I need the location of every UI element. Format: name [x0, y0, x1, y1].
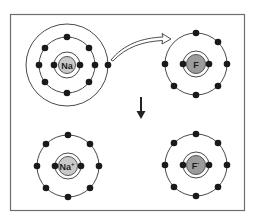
electron-icon: [162, 162, 169, 169]
diagram-frame: [11, 15, 245, 211]
electron-icon: [43, 141, 50, 148]
electron-icon: [215, 83, 222, 90]
electron-icon: [78, 163, 85, 170]
electron-icon: [180, 162, 187, 169]
electron-icon: [43, 185, 50, 192]
electron-icon: [64, 34, 71, 41]
electron-icon: [86, 79, 93, 86]
electron-icon: [193, 131, 200, 138]
electron-icon: [171, 184, 178, 191]
electron-icon: [36, 62, 43, 69]
electron-icon: [215, 140, 222, 147]
electron-icon: [77, 62, 84, 69]
electron-icon: [96, 163, 103, 170]
electron-icon: [51, 62, 58, 69]
electron-icon: [86, 45, 93, 52]
ionic-bond-diagram: Na F Na: [0, 0, 258, 222]
electron-icon: [206, 162, 213, 169]
na-label: Na: [61, 61, 73, 71]
electron-icon: [215, 184, 222, 191]
electron-icon: [215, 39, 222, 46]
electron-icon: [162, 61, 169, 68]
electron-icon: [193, 30, 200, 37]
electron-icon: [65, 194, 72, 201]
electron-icon: [42, 45, 49, 52]
electron-icon: [171, 140, 178, 147]
electron-icon: [42, 79, 49, 86]
electron-icon: [193, 193, 200, 200]
electron-icon: [193, 92, 200, 99]
electron-icon: [34, 163, 41, 170]
electron-icon: [206, 61, 213, 68]
electron-icon: [52, 163, 59, 170]
electron-icon: [64, 90, 71, 97]
electron-icon: [65, 132, 72, 139]
electron-icon: [180, 61, 187, 68]
electron-icon: [87, 185, 94, 192]
electron-icon: [87, 141, 94, 148]
electron-icon: [92, 62, 99, 69]
electron-icon: [224, 61, 231, 68]
electron-icon: [171, 83, 178, 90]
valence-electron-icon: [105, 62, 112, 69]
electron-icon: [224, 162, 231, 169]
f-label: F: [193, 60, 199, 70]
